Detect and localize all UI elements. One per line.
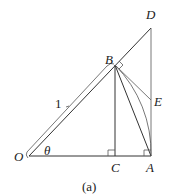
geometry-diagram: D B E O C A θ 1 (a) (0, 0, 171, 196)
length-bracket (27, 63, 114, 152)
right-angle-C (108, 150, 115, 156)
label-A: A (145, 160, 154, 175)
label-E: E (153, 94, 162, 109)
segment-BA (115, 65, 151, 156)
label-B: B (105, 52, 113, 67)
label-theta: θ (44, 143, 51, 158)
label-C: C (111, 160, 120, 175)
label-O: O (14, 149, 24, 164)
segment-OD (29, 28, 151, 156)
figure-caption: (a) (82, 179, 96, 194)
right-angle-B (119, 61, 123, 69)
label-length-1: 1 (55, 96, 62, 111)
length-bracket-end (26, 152, 28, 158)
label-D: D (145, 7, 156, 22)
